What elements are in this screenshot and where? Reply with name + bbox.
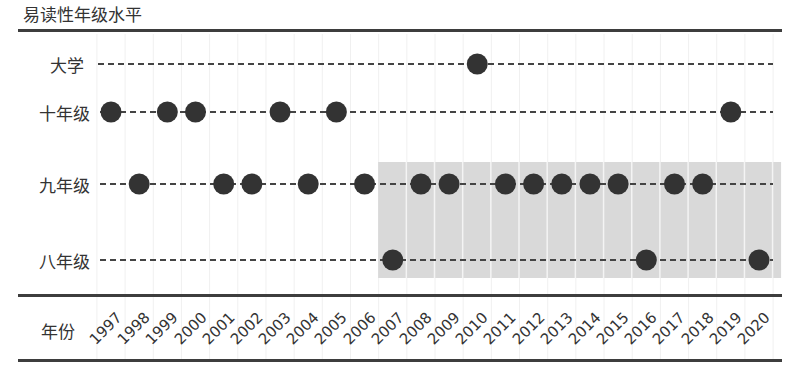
- data-point-2013: [551, 174, 572, 195]
- data-point-2019: [720, 102, 741, 123]
- data-point-1997: [101, 102, 122, 123]
- y-label-1: 十年级: [39, 100, 90, 125]
- data-point-2017: [664, 174, 685, 195]
- data-point-2001: [213, 174, 234, 195]
- data-point-2010: [467, 54, 488, 75]
- data-point-2006: [354, 174, 375, 195]
- y-label-2: 九年级: [39, 172, 90, 197]
- data-point-2018: [692, 174, 713, 195]
- data-point-2002: [241, 174, 262, 195]
- axis-bottom-rule: [18, 359, 782, 362]
- y-label-3: 八年级: [39, 248, 90, 273]
- data-point-2000: [185, 102, 206, 123]
- data-point-2005: [326, 102, 347, 123]
- data-point-2016: [636, 250, 657, 271]
- data-point-2011: [495, 174, 516, 195]
- x-axis-label: 年份: [41, 318, 75, 343]
- data-point-2008: [410, 174, 431, 195]
- data-point-2020: [749, 250, 770, 271]
- data-point-1998: [129, 174, 150, 195]
- data-point-2009: [439, 174, 460, 195]
- data-point-2015: [608, 174, 629, 195]
- data-point-2007: [382, 250, 403, 271]
- data-point-2004: [298, 174, 319, 195]
- axis-top-rule: [18, 294, 782, 297]
- data-point-1999: [157, 102, 178, 123]
- data-point-2003: [270, 102, 291, 123]
- data-point-2014: [579, 174, 600, 195]
- y-label-0: 大学: [50, 52, 84, 77]
- data-point-2012: [523, 174, 544, 195]
